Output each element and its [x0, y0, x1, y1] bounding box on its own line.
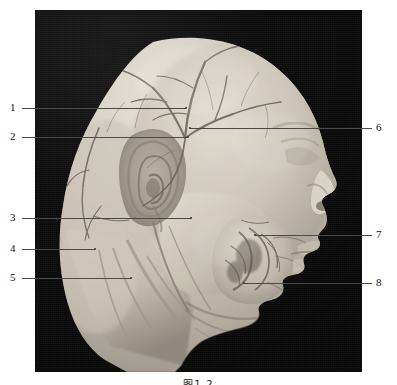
leader-line-3 — [22, 218, 191, 219]
label-number-1: 1 — [10, 102, 16, 113]
leader-line-2 — [22, 137, 188, 138]
leader-line-1 — [22, 108, 186, 109]
leader-line-5 — [22, 278, 131, 279]
anatomical-photograph — [35, 10, 362, 372]
head-specimen — [35, 10, 362, 372]
leader-tip-5 — [130, 277, 132, 279]
leader-tip-8 — [243, 282, 245, 284]
leader-line-7 — [255, 235, 372, 236]
label-number-6: 6 — [376, 122, 382, 133]
leader-tip-1 — [185, 107, 187, 109]
leader-line-4 — [22, 249, 95, 250]
figure-page: 1 2 3 4 5 6 7 8 图1-2 — [0, 0, 397, 385]
label-number-2: 2 — [10, 131, 16, 142]
leader-tip-4 — [94, 248, 96, 250]
leader-tip-6 — [189, 127, 191, 129]
leader-tip-2 — [187, 136, 189, 138]
leader-line-6 — [190, 128, 372, 129]
leader-tip-3 — [190, 217, 192, 219]
label-number-8: 8 — [376, 277, 382, 288]
label-number-5: 5 — [10, 272, 16, 283]
label-number-4: 4 — [10, 243, 16, 254]
leader-tip-7 — [254, 234, 256, 236]
leader-line-8 — [244, 283, 372, 284]
figure-caption: 图1-2 — [0, 376, 397, 385]
label-number-7: 7 — [376, 229, 382, 240]
label-number-3: 3 — [10, 212, 16, 223]
